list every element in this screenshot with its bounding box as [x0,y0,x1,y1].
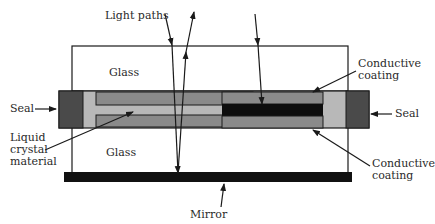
label-seal-right: Seal [395,108,419,120]
liquid-crystal-active [222,104,323,116]
label-material: material [10,156,57,168]
label-conductive-bottom-2: coating [372,170,413,182]
conductive-coating-top [222,92,323,104]
label-seal-left: Seal [10,103,34,115]
label-glass-bottom: Glass [106,147,136,159]
label-conductive-top-2: coating [358,70,399,82]
label-light-paths: Light paths [105,10,169,22]
mirror-arrow [221,184,224,207]
mirror [64,172,352,182]
conductive-bottom-arrow [313,130,370,166]
label-glass-top: Glass [109,67,139,79]
label-mirror: Mirror [190,209,227,221]
seal-left [59,91,83,128]
seal-right [346,91,369,128]
conductive-coating-bottom [222,116,323,128]
